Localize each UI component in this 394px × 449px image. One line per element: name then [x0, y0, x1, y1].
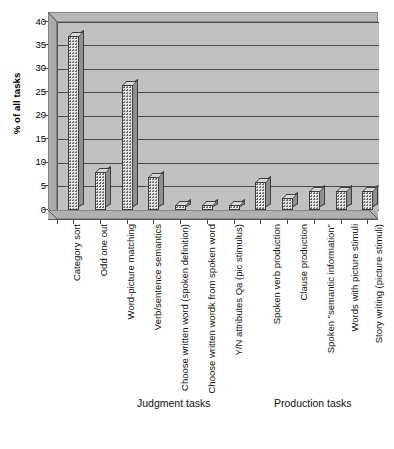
plot-3d-top-edge	[48, 12, 378, 22]
group-label-production: Production tasks	[274, 397, 352, 409]
category-label-0: Category sort	[72, 224, 82, 281]
bars-layer	[57, 22, 378, 210]
category-label-3: Verb/sentence semantics	[153, 224, 163, 330]
bar-face-11	[362, 191, 373, 210]
category-labels: Category sort Odd one out Word-picture m…	[0, 224, 394, 389]
bar-0	[68, 36, 79, 210]
bar-face-5	[202, 205, 213, 210]
bar-4	[175, 205, 186, 210]
bar-face-6	[229, 205, 240, 210]
category-label-2: Word-picture matching	[126, 224, 136, 319]
category-label-5: Choose written wordk from spoken word	[207, 224, 217, 394]
bar-1	[95, 172, 106, 210]
bar-face-0	[68, 36, 79, 210]
bar-side-1	[106, 167, 111, 207]
bar-7	[255, 182, 266, 210]
bar-face-1	[95, 172, 106, 210]
bar-side-2	[133, 80, 138, 207]
bar-5	[202, 205, 213, 210]
bar-face-7	[255, 182, 266, 210]
bar-3	[148, 177, 159, 210]
bar-face-8	[282, 198, 293, 210]
category-label-6: Y/N attributes Qa (pic stimulus)	[234, 224, 244, 355]
bar-9	[309, 191, 320, 210]
group-label-judgment: Judgment tasks	[137, 397, 211, 409]
plot-3d-left-wall	[48, 12, 57, 217]
bar-8	[282, 198, 293, 210]
bar-6	[229, 205, 240, 210]
bar-face-10	[336, 191, 347, 210]
bar-side-0	[79, 30, 84, 207]
bar-10	[336, 191, 347, 210]
bar-11	[362, 191, 373, 210]
bar-2	[122, 85, 133, 210]
category-label-10: Words with picture stimuli	[350, 224, 360, 332]
bar-face-3	[148, 177, 159, 210]
bar-face-2	[122, 85, 133, 210]
category-label-4: Choose written word (spoken definition)	[180, 224, 190, 391]
bar-face-9	[309, 191, 320, 210]
category-label-1: Odd one out	[99, 224, 109, 276]
category-label-7: Spoken verb production	[272, 224, 282, 324]
bar-face-4	[175, 205, 186, 210]
category-label-9: Spoken "semantic information"	[326, 224, 336, 353]
category-label-11: Story writing (picture stimuli)	[374, 224, 384, 343]
category-label-8: Clause production	[299, 224, 309, 301]
bar-chart: % of all tasks 40 35 30 25 20 15 10 5 0	[0, 0, 394, 449]
y-axis-title: % of all tasks	[11, 59, 22, 149]
